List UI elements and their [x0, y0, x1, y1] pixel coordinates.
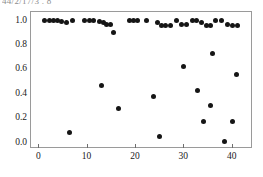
- x-axis-tick-label: 40: [219, 152, 245, 162]
- data-point: [135, 18, 140, 23]
- data-point: [181, 64, 186, 69]
- x-axis-tick-label: 0: [25, 152, 51, 162]
- x-axis-tick-mark: [38, 144, 39, 148]
- x-axis-tick-mark: [183, 144, 184, 148]
- data-point: [91, 18, 96, 23]
- data-point: [199, 20, 204, 25]
- data-point: [195, 88, 200, 93]
- x-axis-tick-label: 10: [74, 152, 100, 162]
- data-point: [234, 72, 239, 77]
- data-point: [230, 119, 235, 124]
- data-point: [168, 23, 173, 28]
- data-point: [67, 130, 72, 135]
- data-point: [184, 22, 189, 27]
- y-axis-tick-label: 0.0: [3, 138, 27, 148]
- data-point: [208, 23, 213, 28]
- data-point: [213, 18, 218, 23]
- y-axis-tick-label: 0.2: [3, 113, 27, 123]
- y-axis-tick-label: 0.8: [3, 40, 27, 50]
- x-axis-tick-mark: [232, 144, 233, 148]
- x-axis-tick-marks: [31, 138, 251, 148]
- y-axis-tick-label: 0.4: [3, 89, 27, 99]
- plot-data-area: [31, 12, 251, 148]
- x-axis-tick-mark: [87, 144, 88, 148]
- y-axis-tick-labels: 0.00.20.40.60.81.0: [0, 11, 27, 148]
- y-axis-tick-label: 0.6: [3, 64, 27, 74]
- data-point: [208, 103, 213, 108]
- data-point: [174, 18, 179, 23]
- data-point: [219, 18, 224, 23]
- data-point: [116, 106, 121, 111]
- data-point: [230, 23, 235, 28]
- x-axis-tick-mark: [135, 144, 136, 148]
- x-axis-tick-label: 20: [122, 152, 148, 162]
- data-point: [151, 94, 156, 99]
- data-point: [70, 18, 75, 23]
- data-point: [210, 51, 215, 56]
- scatter-plot-figure: 44/2/17/3 . 8 0.00.20.40.60.81.0 0102030…: [0, 0, 263, 177]
- data-point: [201, 119, 206, 124]
- data-point: [64, 20, 69, 25]
- data-point: [108, 22, 113, 27]
- x-axis-tick-label: 30: [170, 152, 196, 162]
- data-point: [111, 30, 116, 35]
- data-point: [144, 18, 149, 23]
- data-point: [99, 83, 104, 88]
- data-point: [235, 23, 240, 28]
- y-axis-tick-label: 1.0: [3, 16, 27, 26]
- data-point: [42, 18, 47, 23]
- x-axis-tick-labels: 010203040: [30, 152, 252, 166]
- clipped-header-text: 44/2/17/3 . 8: [2, 0, 62, 7]
